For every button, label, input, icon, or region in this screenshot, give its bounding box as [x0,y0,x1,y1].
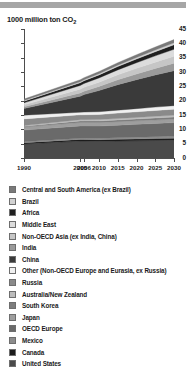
legend-item-label: Australia/New Zealand [22,291,87,298]
legend-color-swatch [9,209,16,216]
y-axis-tick-mark [21,86,24,87]
y-axis-tick-mark [21,115,24,116]
x-axis-tick-mark [174,159,175,162]
y-axis-tick-label: 30 [166,69,186,75]
x-axis-tick-mark [24,159,25,162]
legend-item[interactable]: Japan [0,312,186,324]
legend-color-swatch [9,325,16,332]
legend-color-swatch [9,314,16,321]
legend-item[interactable]: Other (Non-OECD Europe and Eurasia, ex R… [0,265,186,277]
y-axis-tick-label: 10 [166,126,186,132]
legend-item[interactable]: OECD Europe [0,323,186,335]
legend-item[interactable]: Brazil [0,196,186,208]
legend-item[interactable]: Non-OECD Asia (ex India, China) [0,230,186,242]
legend-color-swatch [9,360,16,367]
chart-plot-wrapper: 051015202530354045 199020052006201020152… [0,26,186,176]
x-axis-tick-mark [118,159,119,162]
y-axis-tick-mark [21,29,24,30]
legend-item-label: Middle East [22,221,56,228]
y-axis-tick-label: 40 [166,40,186,46]
legend-item-label: Central and South America (ex Brazil) [22,186,131,193]
y-axis-tick-label: 25 [166,83,186,89]
x-axis-tick-label: 1990 [13,164,35,171]
legend-item-label: China [22,256,39,263]
legend-item[interactable]: India [0,242,186,254]
legend-color-swatch [9,267,16,274]
y-axis-tick-mark [21,72,24,73]
y-axis-tick-label: 5 [166,140,186,146]
chart-title-text: 1000 million ton CO [7,15,73,24]
legend-color-swatch [9,198,16,205]
x-axis-tick-label: 2030 [163,164,185,171]
y-axis-tick-label: 45 [166,26,186,32]
legend-item[interactable]: Africa [0,207,186,219]
legend-color-swatch [9,221,16,228]
legend-color-swatch [9,349,16,356]
legend-item-label: India [22,244,36,251]
legend-item[interactable]: Canada [0,346,186,358]
chart-title-subscript: 2 [73,19,76,25]
legend-item-label: Brazil [22,198,39,205]
y-axis-tick-label: 35 [166,54,186,60]
y-axis-tick-mark [21,58,24,59]
y-axis-tick-label: 0 [166,155,186,161]
legend-item[interactable]: United States [0,358,186,370]
legend-color-swatch [9,337,16,344]
x-axis-tick-mark [137,159,138,162]
legend-item-label: Other (Non-OECD Europe and Eurasia, ex R… [22,267,166,274]
legend-color-swatch [9,186,16,193]
legend-item-label: Japan [22,314,40,321]
legend-item[interactable]: South Korea [0,300,186,312]
y-axis-tick-mark [21,43,24,44]
y-axis-tick-label: 15 [166,112,186,118]
legend-item-label: OECD Europe [22,325,63,332]
legend-item-label: Africa [22,209,39,216]
chart-legend: Central and South America (ex Brazil)Bra… [0,184,186,370]
x-axis-tick-mark [84,159,85,162]
legend-item[interactable]: Middle East [0,219,186,231]
legend-color-swatch [9,244,16,251]
legend-item[interactable]: Russia [0,277,186,289]
legend-color-swatch [9,233,16,240]
y-axis-tick-mark [21,144,24,145]
y-axis-tick-label: 20 [166,97,186,103]
y-axis-tick-mark [21,129,24,130]
x-axis-tick-mark [80,159,81,162]
x-axis-tick-mark [99,159,100,162]
legend-item-label: Russia [22,279,42,286]
legend-item[interactable]: China [0,254,186,266]
y-axis-tick-mark [21,101,24,102]
legend-item-label: Canada [22,349,44,356]
legend-color-swatch [9,279,16,286]
legend-color-swatch [9,256,16,263]
legend-item[interactable]: Mexico [0,335,186,347]
x-axis-tick-mark [155,159,156,162]
legend-item[interactable]: Central and South America (ex Brazil) [0,184,186,196]
legend-color-swatch [9,302,16,309]
plot-area [24,29,174,158]
legend-item[interactable]: Australia/New Zealand [0,288,186,300]
top-banner-bar [0,2,186,8]
stacked-area-svg [24,29,174,158]
chart-title: 1000 million ton CO2 [7,15,76,25]
legend-item-label: Mexico [22,337,43,344]
legend-color-swatch [9,291,16,298]
legend-item-label: Non-OECD Asia (ex India, China) [22,233,117,240]
legend-item-label: South Korea [22,302,58,309]
legend-item-label: United States [22,360,61,367]
